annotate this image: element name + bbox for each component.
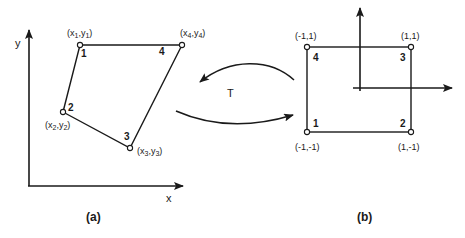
parent-node-2-number: 2 [400,118,406,129]
node-2-marker [60,109,65,114]
isoparametric-mapping-figure: y x 1 2 3 4 (x1,y1) (x2,y2) (x3,y3) (x4,… [0,0,465,238]
transform-label: T [227,87,234,99]
panel-b: 1 2 3 4 (-1,-1) (1,-1) (1,1) (-1,1) (b) [295,8,452,224]
panel-b-caption: (b) [357,210,372,224]
node-3-number: 3 [124,131,130,142]
node-1-number: 1 [81,48,87,59]
panel-a: y x 1 2 3 4 (x1,y1) (x2,y2) (x3,y3) (x4,… [15,28,205,224]
parent-node-1-number: 1 [313,118,319,129]
node-3-marker [127,145,132,150]
node-1-marker [77,42,82,47]
panel-a-caption: (a) [86,210,101,224]
square-edges [307,47,411,132]
node-4-marker [179,42,184,47]
node-2-coord-label: (x2,y2) [45,120,70,131]
parent-node-4-number: 4 [313,52,319,63]
node-4-number: 4 [159,46,165,57]
node-1-coord-label: (x1,y1) [67,28,92,39]
parent-node-4-coord-label: (-1,1) [295,31,317,41]
natural-axes [353,8,452,91]
parent-square: 1 2 3 4 (-1,-1) (1,-1) (1,1) (-1,1) [295,31,420,152]
parent-node-1-coord-label: (-1,-1) [295,142,320,152]
inverse-mapping-arrow [200,64,294,82]
quad-edges [63,45,182,148]
parent-node-4-marker [304,44,309,49]
parent-node-1-marker [304,129,309,134]
parent-node-2-marker [408,129,413,134]
node-2-number: 2 [68,102,74,113]
parent-node-2-coord-label: (1,-1) [398,142,420,152]
node-4-coord-label: (x4,y4) [180,28,205,39]
parent-node-3-marker [408,44,413,49]
parent-node-3-coord-label: (1,1) [401,31,420,41]
y-axis-label: y [15,37,21,49]
node-3-coord-label: (x3,y3) [137,146,162,157]
forward-mapping-arrow [176,111,293,124]
parent-node-3-number: 3 [400,52,406,63]
physical-quadrilateral: 1 2 3 4 (x1,y1) (x2,y2) (x3,y3) (x4,y4) [45,28,205,157]
transformation: T [176,64,294,124]
cartesian-axes: y x [15,30,183,204]
x-axis-label: x [166,192,172,204]
